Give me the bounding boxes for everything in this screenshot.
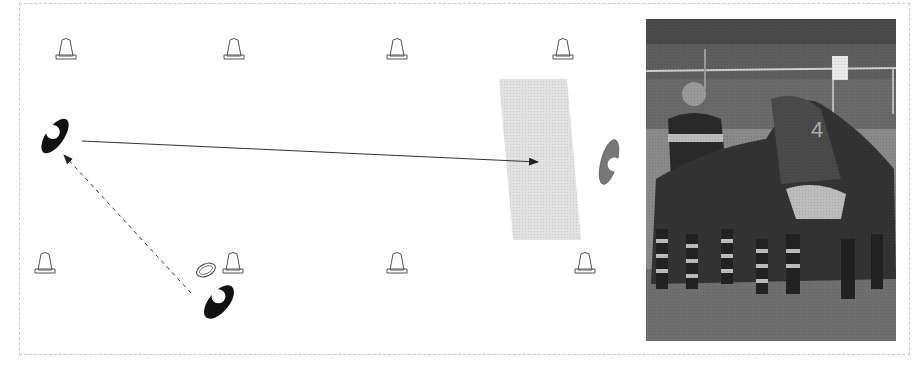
- cone-icon: [223, 253, 243, 274]
- cone-icon: [553, 39, 573, 60]
- pass-arrow: [64, 155, 191, 293]
- attacker-player-icon: [35, 113, 74, 157]
- cone-icon: [387, 253, 407, 274]
- cone-icon: [56, 39, 76, 60]
- cone-icon: [387, 39, 407, 60]
- attacker-player-icon: [198, 280, 240, 324]
- defender-player-icon: [595, 138, 627, 188]
- target-zone: [499, 79, 581, 240]
- cone-icon: [224, 39, 244, 60]
- rugby-maul-photo: 4 Rugby maul photograph (black and white…: [646, 19, 896, 341]
- run-arrow: [82, 141, 538, 162]
- photo-image: 4: [646, 19, 896, 341]
- cone-icon: [575, 253, 595, 274]
- rugby-ball-icon: [194, 260, 217, 279]
- cone-icon: [35, 253, 55, 274]
